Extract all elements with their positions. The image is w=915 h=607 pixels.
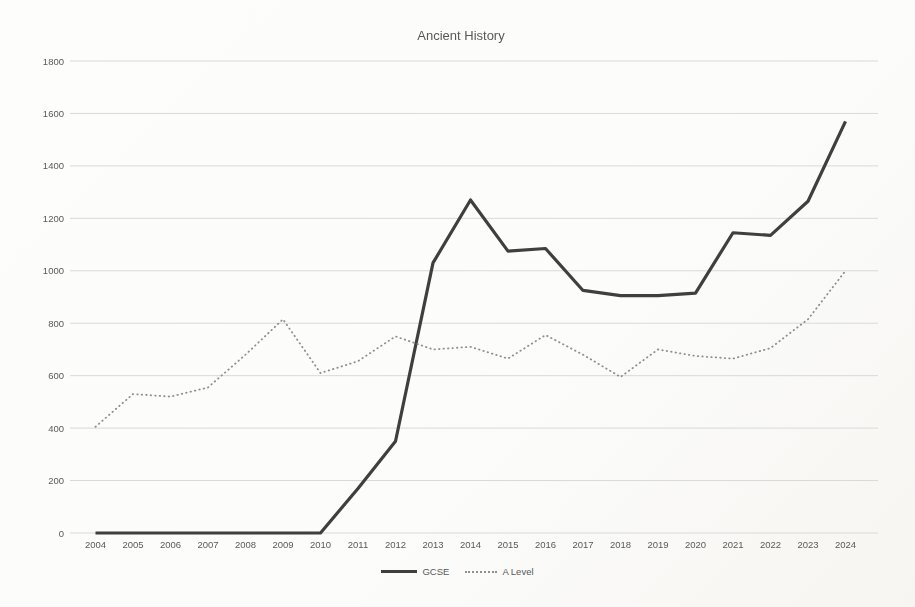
series-layer [96,121,846,533]
x-tick-label: 2005 [122,539,143,550]
chart-page: Ancient History 020040060080010001200140… [0,0,915,607]
x-tick-label: 2004 [85,539,106,550]
y-tick-label: 0 [59,528,64,539]
a-level-line [96,271,846,427]
x-tick-label: 2023 [797,539,818,550]
x-tick-label: 2019 [647,539,668,550]
x-tick-label: 2009 [272,539,293,550]
legend-label-a-level: A Level [502,566,533,577]
legend-label-gcse: GCSE [422,566,449,577]
x-tick-label: 2006 [160,539,181,550]
x-tick-label: 2010 [310,539,331,550]
x-tick-label: 2018 [610,539,631,550]
x-tick-label: 2016 [535,539,556,550]
y-tick-label: 1200 [43,213,64,224]
axis-labels-layer: 0200400600800100012001400160018002004200… [43,56,856,551]
y-tick-label: 1400 [43,160,64,171]
y-tick-label: 1600 [43,108,64,119]
y-tick-label: 1000 [43,265,64,276]
legend: GCSE A Level [0,566,915,577]
legend-item-a-level: A Level [465,566,533,577]
x-tick-label: 2013 [422,539,443,550]
x-tick-label: 2024 [835,539,856,550]
y-tick-label: 600 [48,370,64,381]
x-tick-label: 2021 [722,539,743,550]
legend-item-gcse: GCSE [381,566,449,577]
x-tick-label: 2007 [197,539,218,550]
gcse-solid-line-swatch [381,570,417,573]
a-level-dotted-line-swatch [465,571,497,573]
x-tick-label: 2017 [572,539,593,550]
x-tick-label: 2020 [685,539,706,550]
gcse-line [96,121,846,533]
x-tick-label: 2014 [460,539,481,550]
chart-title: Ancient History [417,28,505,43]
y-tick-label: 200 [48,475,64,486]
x-tick-label: 2011 [348,539,368,550]
x-tick-label: 2008 [235,539,256,550]
y-tick-label: 800 [48,318,64,329]
x-tick-label: 2012 [385,539,406,550]
x-tick-label: 2022 [760,539,781,550]
x-tick-label: 2015 [497,539,518,550]
y-tick-label: 1800 [43,56,64,67]
y-tick-label: 400 [48,423,64,434]
gridlines-layer [70,61,878,533]
line-chart: Ancient History 020040060080010001200140… [0,0,915,607]
